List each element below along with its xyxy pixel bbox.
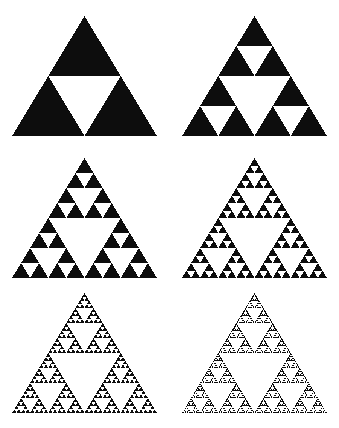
sierpinski-triangle-shape [12,158,157,278]
sierpinski-iteration-1 [12,16,157,136]
sierpinski-iteration-1-svg [12,16,157,136]
sierpinski-iteration-4-svg [182,158,327,278]
sierpinski-triangle-shape [182,16,327,136]
sierpinski-iteration-5-svg [12,293,157,413]
sierpinski-iteration-2 [182,16,327,136]
sierpinski-iteration-5 [12,293,157,413]
sierpinski-iteration-figure [0,0,339,428]
sierpinski-triangle-shape [12,293,157,413]
sierpinski-iteration-3 [12,158,157,278]
sierpinski-iteration-6-svg [182,293,327,413]
sierpinski-iteration-2-svg [182,16,327,136]
sierpinski-triangle-shape [182,293,327,413]
sierpinski-triangle-shape [182,158,327,278]
sierpinski-iteration-4 [182,158,327,278]
sierpinski-iteration-6 [182,293,327,413]
sierpinski-iteration-3-svg [12,158,157,278]
sierpinski-triangle-shape [12,16,157,136]
